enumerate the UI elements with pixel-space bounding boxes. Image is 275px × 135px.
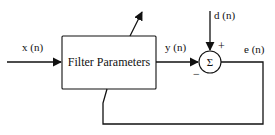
plus-sign: + [218,40,225,52]
error-signal-label: e (n) [244,43,264,55]
filter-block-label: Filter Parameters [62,36,156,89]
output-signal-label: y (n) [165,41,186,53]
desired-signal-label: d (n) [214,9,235,21]
input-signal-label: x (n) [22,41,43,53]
adaptation-arrow [130,12,142,36]
minus-sign: − [193,68,200,80]
sigma-symbol: Σ [199,51,221,73]
